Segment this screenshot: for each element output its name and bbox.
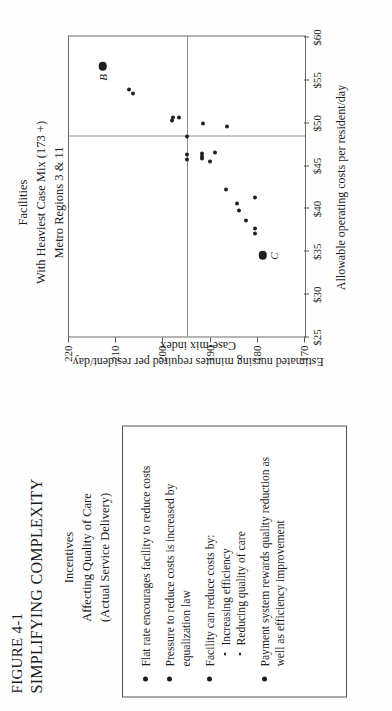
y-axis-title-main: Estimated nursing minutes required per r… <box>73 354 324 368</box>
data-point <box>237 208 241 212</box>
data-point <box>131 91 135 95</box>
x-tick-label: $45 <box>311 157 323 174</box>
data-point <box>99 62 108 71</box>
x-tick-label: $35 <box>311 243 323 260</box>
data-point <box>235 201 239 205</box>
data-point <box>200 154 204 158</box>
chart-title: Facilities <box>14 11 32 393</box>
x-tick-label: $55 <box>311 72 323 89</box>
data-point <box>177 115 181 119</box>
data-point <box>170 118 174 122</box>
chart-heading: Facilities With Heaviest Case Mix (173 +… <box>14 11 68 393</box>
sub-list-item-text: Increasing efficiency <box>220 548 233 645</box>
bullet-icon <box>167 676 172 681</box>
incentives-box: Flat rate encourages facility to reduce … <box>122 425 347 697</box>
figure-title: SIMPLIFYING COMPLEXITY <box>27 478 47 693</box>
data-point-label-c: C <box>268 252 280 259</box>
chart-subtitle-2: Metro Regions 3 & 11 <box>50 11 68 393</box>
x-tick-mark <box>304 250 309 251</box>
figure-number: FIGURE 4-1 <box>9 612 25 693</box>
incentives-panel: Incentives Affecting Quality of Care (Ac… <box>60 417 347 697</box>
data-point <box>224 187 228 191</box>
incentives-heading-line3: (Actual Service Delivery) <box>96 417 114 697</box>
list-item: Payment system rewards quality reduction… <box>258 440 288 682</box>
data-point <box>225 124 229 128</box>
bullet-icon <box>143 676 148 681</box>
data-point <box>185 157 189 161</box>
sub-bullet-icon <box>224 652 227 655</box>
x-axis-ticks: $25$30$35$40$45$50$55$60 <box>304 37 330 337</box>
data-point <box>201 121 205 125</box>
x-tick-mark <box>304 207 309 208</box>
data-point <box>185 134 189 138</box>
incentives-list: Flat rate encourages facility to reduce … <box>139 440 288 682</box>
x-tick-label: $60 <box>311 29 323 46</box>
list-item-text: Pressure to reduce costs is increased by… <box>164 483 192 666</box>
scanned-page: FIGURE 4-1 SIMPLIFYING COMPLEXITY Incent… <box>0 0 392 711</box>
sub-bullet-icon <box>239 652 242 655</box>
x-tick-mark <box>304 293 309 294</box>
figure-title-block: FIGURE 4-1 SIMPLIFYING COMPLEXITY <box>8 478 47 693</box>
x-tick-mark <box>304 79 309 80</box>
incentives-heading: Incentives Affecting Quality of Care (Ac… <box>60 417 114 697</box>
incentives-heading-line1: Incentives <box>60 417 78 697</box>
list-item-text: Facility can reduce costs by: <box>204 534 217 666</box>
data-point <box>127 87 131 91</box>
x-tick-mark <box>304 122 309 123</box>
data-point <box>213 150 217 154</box>
x-tick-mark <box>304 165 309 166</box>
sub-list-item-text: Reducing quality of care <box>235 531 248 645</box>
list-item: Pressure to reduce costs is increased by… <box>163 440 193 682</box>
list-item-text: Payment system rewards quality reduction… <box>259 456 287 666</box>
list-item-text: Flat rate encourages facility to reduce … <box>140 465 153 666</box>
data-point <box>253 226 257 230</box>
x-tick-label: $40 <box>311 200 323 217</box>
chart-subtitle-1: With Heaviest Case Mix (173 +) <box>32 11 50 393</box>
sub-list-item: Reducing quality of care <box>234 440 249 656</box>
data-point <box>253 231 257 235</box>
x-axis-title: Allowable operating costs per resident/d… <box>334 37 349 337</box>
data-point-label-b: B <box>97 74 109 81</box>
incentives-heading-line2: Affecting Quality of Care <box>78 417 96 697</box>
data-point <box>258 250 267 259</box>
list-item: Flat rate encourages facility to reduce … <box>139 440 154 682</box>
plot-area: BC <box>68 35 306 337</box>
scatter-chart: Facilities With Heaviest Case Mix (173 +… <box>14 11 74 393</box>
y-axis-title: Estimated nursing minutes required per r… <box>64 337 332 369</box>
x-tick-label: $30 <box>311 286 323 303</box>
x-tick-label: $50 <box>311 114 323 131</box>
list-item: Facility can reduce costs by: Increasing… <box>203 440 249 682</box>
horizontal-reference-line <box>187 36 188 336</box>
data-point <box>244 218 248 222</box>
bullet-icon <box>262 676 267 681</box>
bullet-icon <box>207 676 212 681</box>
data-point <box>208 159 212 163</box>
x-tick-mark <box>304 36 309 37</box>
data-point <box>253 195 257 199</box>
data-point <box>185 152 189 156</box>
y-axis-title-sub: Case-mix index <box>64 337 332 353</box>
sub-list-item: Increasing efficiency <box>219 440 234 656</box>
incentives-sublist: Increasing efficiency Reducing quality o… <box>219 440 249 656</box>
